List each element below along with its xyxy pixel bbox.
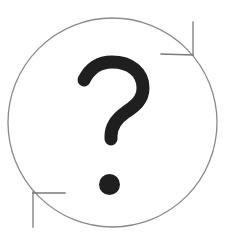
- arrow-corner-bottom-left-icon: [33, 192, 65, 227]
- icon-canvas: ?: [0, 0, 226, 239]
- question-mark-dot-icon: [99, 174, 120, 195]
- question-mark-hook-icon: [84, 62, 143, 139]
- question-refresh-icon: [0, 0, 226, 239]
